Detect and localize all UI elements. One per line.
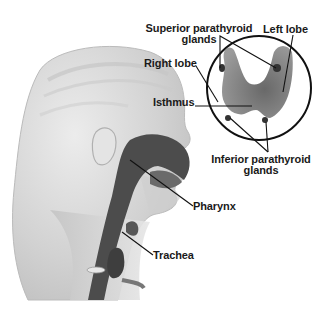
label-superior-line2: glands: [138, 34, 260, 45]
inferior-parathyroid-left: [262, 117, 268, 123]
label-isthmus: Isthmus: [153, 97, 194, 108]
label-superior-parathyroid-glands: Superior parathyroid glands: [138, 23, 260, 45]
label-inferior-line2: glands: [208, 165, 314, 176]
magnified-thyroid-inset: [207, 36, 311, 140]
superior-parathyroid-left: [273, 64, 281, 72]
label-pharynx: Pharynx: [193, 201, 236, 212]
label-left-lobe: Left lobe: [263, 24, 308, 35]
label-inferior-parathyroid-glands: Inferior parathyroid glands: [208, 154, 314, 176]
label-right-lobe: Right lobe: [144, 58, 197, 69]
label-trachea: Trachea: [153, 250, 194, 261]
